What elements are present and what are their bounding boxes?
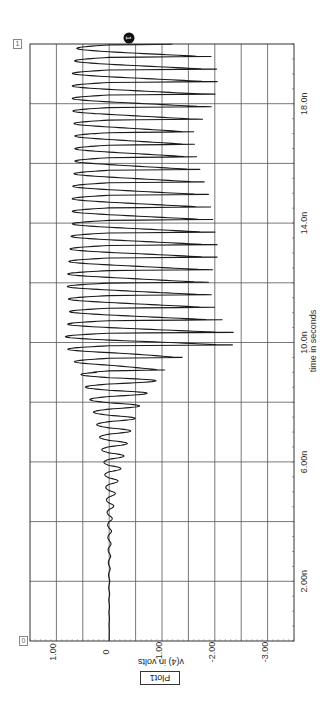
axis-labels: 1.000-1.00-2.00-3.002.00n6.00n10.0n14.0n… bbox=[48, 92, 309, 662]
y-tick-label: -3.00 bbox=[260, 642, 270, 663]
y-tick-label: -2.00 bbox=[207, 642, 217, 663]
plot-title-box[interactable]: Plot1 bbox=[140, 671, 180, 685]
x-axis-title: time in seconds bbox=[308, 309, 318, 372]
cursor-bottom-box[interactable]: 0 bbox=[19, 636, 28, 646]
cursor-top-box[interactable]: 1 bbox=[13, 39, 22, 49]
chart-canvas: 1.000-1.00-2.00-3.002.00n6.00n10.0n14.0n… bbox=[0, 0, 326, 721]
x-tick-label: 6.00n bbox=[299, 451, 309, 474]
x-tick-label: 14.0n bbox=[299, 212, 309, 235]
y-tick-label: 1.00 bbox=[48, 643, 58, 661]
x-tick-label: 2.00n bbox=[299, 570, 309, 593]
cursor-marker-label: 1 bbox=[125, 36, 132, 40]
x-tick-label: 18.0n bbox=[299, 92, 309, 115]
y-axis-title: v(4) in volts bbox=[126, 657, 196, 667]
y-tick-label: 0 bbox=[101, 649, 111, 654]
